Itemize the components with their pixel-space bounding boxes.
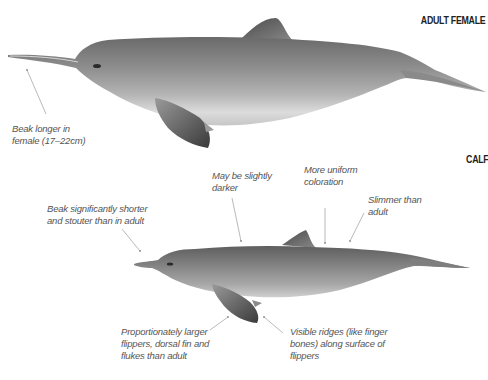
annotation-line: darker [212, 182, 272, 194]
annotation-line: May be slightly [212, 170, 272, 182]
annotation-line: Slimmer than [368, 194, 422, 206]
annotation-larger-flippers: Proportionately larger flippers, dorsal … [121, 326, 209, 362]
annotation-line: Proportionately larger [121, 326, 209, 338]
pointer-beak-shorter [122, 229, 140, 251]
pointer-larger-flippers [210, 317, 228, 330]
calf-fluke [410, 258, 470, 268]
calf-eye [167, 262, 173, 265]
heading-calf: CALF [466, 154, 488, 165]
annotation-line: More uniform [304, 164, 358, 176]
annotation-slimmer: Slimmer than adult [368, 194, 422, 218]
annotation-beak-shorter: Beak significantly shorter and stouter t… [47, 203, 147, 227]
pointer-slimmer [350, 213, 364, 241]
annotation-line: flukes than adult [121, 350, 209, 362]
dolphin-comparison-diagram: ADULT FEMALE CALF Beak longer in female … [0, 0, 488, 380]
annotation-line: flippers [290, 350, 387, 362]
heading-adult-female: ADULT FEMALE [420, 15, 485, 26]
pointer-ridges [264, 317, 283, 333]
annotation-line: Beak longer in [12, 123, 85, 135]
annotation-line: coloration [304, 176, 358, 188]
calf-flipper-tip [252, 300, 262, 307]
pointer-beak-female [27, 70, 46, 114]
calf-dolphin [134, 230, 470, 323]
annotation-line: flippers, dorsal fin and [121, 338, 209, 350]
annotation-beak-female: Beak longer in female (17–22cm) [12, 123, 85, 147]
calf-body [134, 246, 470, 297]
annotation-ridges: Visible ridges (like finger bones) along… [290, 326, 387, 362]
annotation-line: Visible ridges (like finger [290, 326, 387, 338]
annotation-line: bones) along surface of [290, 338, 387, 350]
annotation-line: and stouter than in adult [47, 215, 147, 227]
annotation-line: adult [368, 206, 422, 218]
adult-eye [93, 64, 101, 68]
calf-dorsal-fin [282, 230, 316, 248]
annotation-line: female (17–22cm) [12, 135, 85, 147]
pointer-darker [232, 198, 241, 241]
annotation-uniform: More uniform coloration [304, 164, 358, 188]
pointer-dot [26, 69, 28, 71]
annotation-darker: May be slightly darker [212, 170, 272, 194]
adult-body [8, 37, 486, 126]
annotation-line: Beak significantly shorter [47, 203, 147, 215]
